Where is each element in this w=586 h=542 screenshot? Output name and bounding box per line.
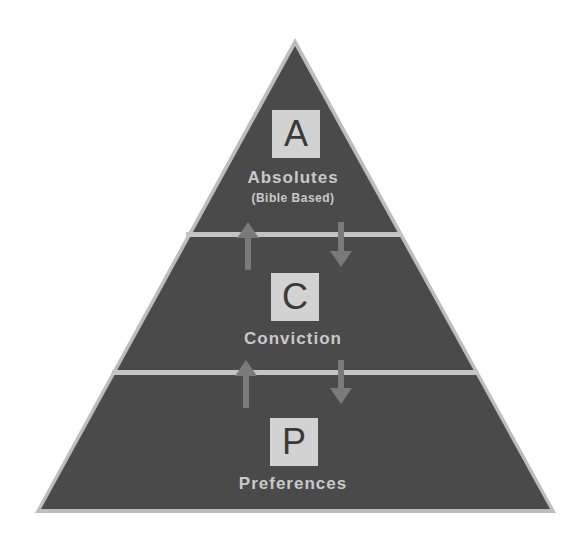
- tier-letter-box-conviction: C: [271, 273, 319, 321]
- pyramid-diagram: A Absolutes (Bible Based) C Conviction P…: [0, 0, 586, 542]
- tier-label-preferences: Preferences: [0, 474, 586, 494]
- tier-letter-box-absolutes: A: [272, 110, 320, 158]
- tier-letter-box-preferences: P: [270, 418, 318, 466]
- tier-sublabel-absolutes: (Bible Based): [0, 191, 586, 205]
- tier-separator-2: [112, 370, 478, 375]
- tier-label-conviction: Conviction: [0, 329, 586, 349]
- tier-separator-1: [186, 232, 402, 237]
- tier-label-absolutes: Absolutes: [0, 168, 586, 188]
